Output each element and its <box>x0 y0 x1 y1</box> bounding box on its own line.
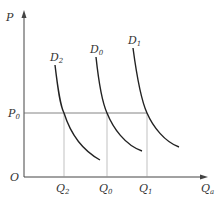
chart-svg: P O P0 Q2 Q0 Q1 Qa D2 D0 D1 <box>0 0 217 201</box>
y-axis-arrow-icon <box>22 10 27 18</box>
q2-label: Q2 <box>56 182 70 196</box>
d0-curve <box>96 57 142 151</box>
d1-label: D1 <box>127 34 141 48</box>
x-axis-arrow-icon <box>200 175 208 180</box>
d1-curve <box>133 48 179 147</box>
x-axis-label: Qa <box>201 182 214 196</box>
p0-label: P0 <box>7 107 20 121</box>
demand-curves-chart: P O P0 Q2 Q0 Q1 Qa D2 D0 D1 <box>0 0 217 201</box>
d0-label: D0 <box>89 43 104 57</box>
q0-label: Q0 <box>99 182 113 196</box>
y-axis-label: P <box>5 11 14 24</box>
q1-label: Q1 <box>139 182 153 196</box>
origin-label: O <box>10 171 19 184</box>
d2-label: D2 <box>49 51 64 65</box>
d2-curve <box>55 65 100 160</box>
